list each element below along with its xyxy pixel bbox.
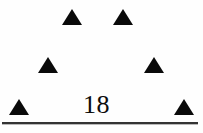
triangle-middle-left-icon (38, 57, 58, 73)
triangle-bottom-right-icon (174, 99, 194, 115)
triangle-top-right-icon (113, 9, 133, 25)
page-number: 18 (83, 92, 110, 118)
triangle-top-left-icon (62, 9, 82, 25)
figure-canvas: 18 (0, 0, 203, 133)
horizontal-rule-shadow (2, 124, 198, 125)
triangle-bottom-left-icon (9, 99, 29, 115)
triangle-middle-right-icon (144, 57, 164, 73)
